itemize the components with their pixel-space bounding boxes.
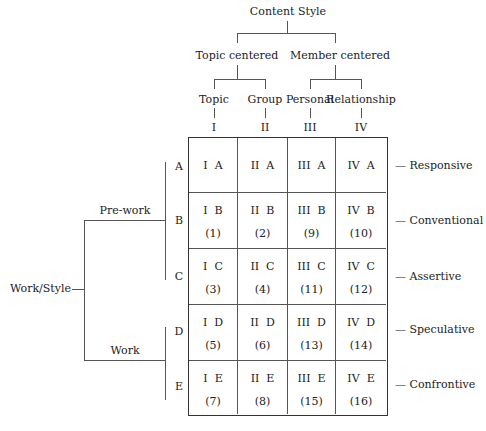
cell-number: (9)	[288, 227, 335, 240]
cell-number: (3)	[189, 283, 237, 296]
assertive-label: Assertive	[410, 270, 462, 283]
cell-code: II B	[238, 204, 287, 217]
tree-line	[310, 79, 311, 89]
responsive-label: Responsive	[410, 159, 473, 172]
cell-number: (2)	[238, 227, 287, 240]
matrix-cell: II C(4)	[238, 249, 288, 305]
cell-number: (8)	[238, 395, 287, 408]
tree-line	[265, 108, 266, 118]
right-label-confrontive: — Confrontive	[395, 379, 475, 390]
cell-code: III E	[288, 372, 335, 385]
cell-code: I A	[189, 159, 237, 172]
matrix-cell: IV E(16)	[336, 361, 386, 414]
row-label-d: D	[175, 326, 184, 337]
matrix-cell: II B(2)	[238, 193, 288, 249]
cell-number: (11)	[288, 283, 335, 296]
matrix-cell: I E(7)	[189, 361, 238, 414]
matrix-cell: II A	[238, 138, 288, 193]
column-label-ii: II	[261, 122, 270, 133]
cell-code: III D	[288, 316, 335, 329]
tree-line	[310, 108, 311, 118]
cell-number: (5)	[189, 339, 237, 352]
conventional-label: Conventional	[410, 214, 484, 227]
matrix-cell: III E(15)	[288, 361, 336, 414]
tree-line	[165, 327, 166, 400]
work-label: Work	[110, 345, 139, 356]
topic-label: Topic	[199, 94, 229, 105]
cell-code: IV A	[336, 159, 386, 172]
cell-number: (1)	[189, 227, 237, 240]
cell-code: IV E	[336, 372, 386, 385]
matrix-cell: III B(9)	[288, 193, 336, 249]
row-label-b: B	[175, 215, 183, 226]
confrontive-label: Confrontive	[410, 378, 476, 391]
member-centered-label: Member centered	[290, 50, 390, 61]
matrix-cell: I C(3)	[189, 249, 238, 305]
matrix-cell: II E(8)	[238, 361, 288, 414]
cell-number: (15)	[288, 395, 335, 408]
matrix-cell: I A	[189, 138, 238, 193]
work-style-title: Work/Style	[10, 283, 71, 294]
row-label-a: A	[175, 161, 183, 172]
tree-line	[265, 79, 266, 89]
cell-code: I E	[189, 372, 237, 385]
matrix-cell: IV C(12)	[336, 249, 386, 305]
cell-code: III A	[288, 159, 335, 172]
tree-line	[237, 33, 335, 34]
cell-code: III C	[288, 260, 335, 273]
matrix-cell: IV B(10)	[336, 193, 386, 249]
cell-number: (12)	[336, 283, 386, 296]
tree-line	[214, 79, 265, 80]
tree-line	[287, 21, 288, 33]
right-label-speculative: — Speculative	[395, 324, 475, 335]
topic-centered-label: Topic centered	[196, 50, 279, 61]
cell-code: III B	[288, 204, 335, 217]
cell-code: IV B	[336, 204, 386, 217]
tree-line	[361, 108, 362, 118]
pre-work-label: Pre-work	[100, 205, 151, 216]
tree-line	[84, 220, 85, 360]
style-matrix: I AII AIII AIV AI B(1)II B(2)III B(9)IV …	[188, 137, 388, 416]
content-style-title: Content Style	[250, 6, 326, 17]
column-label-iv: IV	[355, 122, 367, 133]
tree-line	[165, 162, 166, 280]
right-label-responsive: — Responsive	[395, 160, 473, 171]
right-label-assertive: — Assertive	[395, 271, 461, 282]
tree-line	[72, 289, 84, 290]
tree-line	[335, 65, 336, 79]
right-label-conventional: — Conventional	[395, 215, 483, 226]
cell-number: (6)	[238, 339, 287, 352]
cell-code: II E	[238, 372, 287, 385]
cell-code: II A	[238, 159, 287, 172]
cell-number: (7)	[189, 395, 237, 408]
matrix-cell: I B(1)	[189, 193, 238, 249]
cell-code: I D	[189, 316, 237, 329]
relationship-label: Relationship	[326, 94, 396, 105]
column-label-i: I	[212, 122, 216, 133]
cell-code: I B	[189, 204, 237, 217]
tree-line	[237, 65, 238, 79]
row-label-c: C	[175, 271, 183, 282]
column-label-iii: III	[303, 122, 316, 133]
cell-number: (4)	[238, 283, 287, 296]
tree-line	[335, 33, 336, 43]
tree-line	[237, 33, 238, 43]
cell-code: II C	[238, 260, 287, 273]
matrix-cell: III C(11)	[288, 249, 336, 305]
matrix-cell: IV A	[336, 138, 386, 193]
row-label-e: E	[175, 381, 183, 392]
cell-number: (13)	[288, 339, 335, 352]
tree-line	[361, 79, 362, 89]
tree-line	[214, 108, 215, 118]
cell-number: (16)	[336, 395, 386, 408]
cell-code: II D	[238, 316, 287, 329]
tree-line	[310, 79, 361, 80]
cell-code: I C	[189, 260, 237, 273]
matrix-cell: III A	[288, 138, 336, 193]
cell-number: (14)	[336, 339, 386, 352]
matrix-cell: I D(5)	[189, 305, 238, 361]
group-label: Group	[248, 94, 283, 105]
cell-code: IV D	[336, 316, 386, 329]
speculative-label: Speculative	[410, 323, 475, 336]
cell-number: (10)	[336, 227, 386, 240]
